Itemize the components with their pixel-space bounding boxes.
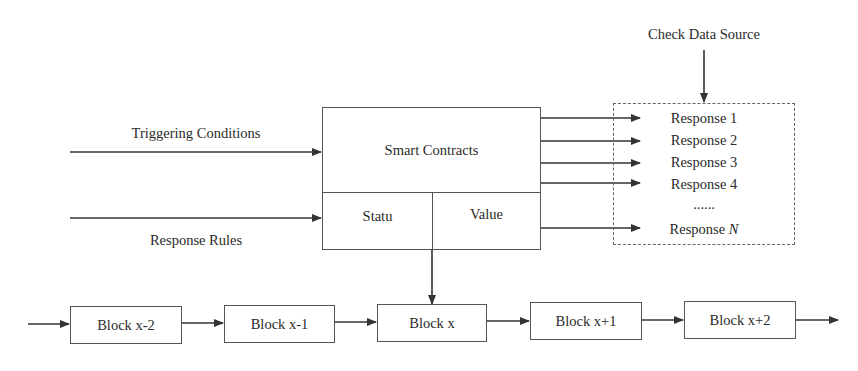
response-rules-label: Response Rules	[150, 233, 242, 248]
status-label: Statu	[363, 208, 393, 225]
value-label: Value	[470, 206, 503, 223]
check-data-source-label: Check Data Source	[648, 27, 760, 42]
smart-contracts-title: Smart Contracts	[385, 142, 479, 159]
value-cell: Value	[432, 192, 541, 250]
block-x-minus-2: Block x-2	[70, 306, 182, 344]
block-x-plus-2: Block x+2	[684, 301, 796, 339]
block-x: Block x	[377, 304, 487, 342]
triggering-conditions-label: Triggering Conditions	[132, 126, 261, 141]
block-x-minus-1: Block x-1	[224, 305, 335, 343]
status-cell: Statu	[322, 192, 433, 250]
smart-contracts-box: Smart Contracts	[322, 107, 541, 193]
smart-contract-diagram: Triggering Conditions Response Rules Sma…	[0, 0, 858, 371]
block-x-plus-1: Block x+1	[530, 302, 642, 340]
